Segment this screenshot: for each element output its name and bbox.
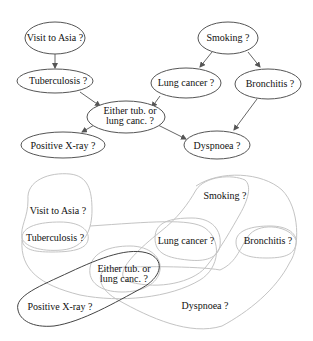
edge-either-dysp — [156, 124, 186, 139]
label-tuberculosis: Tuberculosis ? — [26, 232, 85, 243]
node-positive-xray: Positive X-ray ? — [21, 132, 105, 158]
label-bronchitis: Bronchitis ? — [244, 235, 293, 246]
node-smoking: Smoking ? — [198, 22, 258, 54]
node-lung-cancer: Lung cancer ? — [151, 68, 221, 98]
node-visit-to-asia: Visit to Asia ? — [25, 22, 85, 54]
label-smoking: Smoking ? — [203, 190, 247, 201]
label-dyspnoea: Dyspnoea ? — [182, 300, 229, 311]
label-positive-xray: Positive X-ray ? — [28, 301, 94, 312]
node-bronchitis: Bronchitis ? — [235, 69, 301, 99]
node-label: Visit to Asia ? — [27, 32, 84, 43]
edge-smoke-bronc — [248, 52, 260, 67]
node-label: Smoking ? — [206, 32, 250, 43]
directed-graph: Visit to Asia ? Tuberculosis ? Either tu… — [17, 22, 301, 159]
label-lung-cancer: Lung cancer ? — [158, 235, 215, 246]
node-label: Lung cancer ? — [158, 77, 215, 88]
bayesian-network-figure: Visit to Asia ? Tuberculosis ? Either tu… — [0, 0, 313, 341]
label-either-line2: lung canc. ? — [100, 273, 149, 284]
node-dyspnoea: Dyspnoea ? — [184, 131, 250, 159]
clique-hypergraph: Visit to Asia ? Tuberculosis ? Smoking ?… — [18, 174, 297, 329]
edge-tub-either — [80, 92, 100, 106]
edge-smoke-lung — [200, 52, 212, 67]
node-either-tub-or-lung-canc: Either tub. or lung canc. ? — [87, 101, 165, 133]
node-label: Tuberculosis ? — [29, 75, 88, 86]
node-label-line2: lung canc. ? — [106, 115, 155, 126]
label-visit-to-asia: Visit to Asia ? — [30, 205, 87, 216]
node-label: Positive X-ray ? — [31, 140, 97, 151]
node-label: Bronchitis ? — [246, 78, 295, 89]
edge-bronc-dysp — [234, 99, 257, 130]
node-label: Dyspnoea ? — [194, 140, 241, 151]
node-tuberculosis: Tuberculosis ? — [17, 69, 93, 93]
